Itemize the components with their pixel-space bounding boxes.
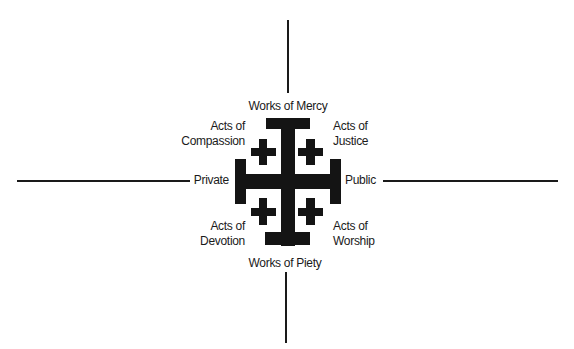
label-devotion-line1: Acts of	[160, 220, 245, 233]
small-cross-br-v	[306, 198, 315, 225]
label-works-of-mercy: Works of Mercy	[238, 100, 338, 113]
label-justice-line1: Acts of	[333, 120, 413, 133]
label-public: Public	[345, 174, 395, 187]
jerusalem-cross-icon	[0, 0, 574, 349]
cross-right-bar	[330, 159, 341, 204]
label-justice-line2: Justice	[333, 135, 413, 148]
small-cross-bl-v	[259, 198, 267, 225]
label-works-of-piety: Works of Piety	[235, 257, 335, 270]
cross-bottom-bar	[265, 232, 310, 245]
label-compassion-line1: Acts of	[160, 120, 245, 133]
label-worship-line2: Worship	[333, 235, 413, 248]
label-worship-line1: Acts of	[333, 220, 413, 233]
small-cross-tr-v	[306, 139, 315, 165]
label-compassion-line2: Compassion	[160, 135, 245, 148]
cross-crossbar	[235, 174, 341, 189]
small-cross-tl-v	[259, 139, 267, 165]
label-devotion-line2: Devotion	[160, 235, 245, 248]
label-private: Private	[180, 174, 229, 187]
